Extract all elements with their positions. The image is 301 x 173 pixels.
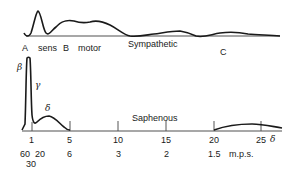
label-delta: δ (45, 103, 50, 113)
velocity-units: m.p.s. (229, 149, 254, 159)
sympathetic-curve (24, 11, 280, 37)
velocity-30: 30 (26, 159, 36, 169)
label-delta-2: δ (270, 134, 275, 144)
chart-canvas (0, 0, 301, 173)
label-beta: β (17, 62, 22, 72)
velocity-60: 60 (20, 149, 30, 159)
tick-1: 1 (29, 135, 34, 145)
tick-10: 10 (113, 135, 123, 145)
velocity-2: 2 (164, 149, 169, 159)
velocity-6: 6 (67, 149, 72, 159)
label-B: B (63, 43, 69, 53)
label-gamma: γ (35, 80, 40, 90)
label-saphenous: Saphenous (132, 113, 178, 123)
saphenous-curve (22, 57, 70, 130)
velocity-20: 20 (35, 149, 45, 159)
tick-15: 15 (161, 135, 171, 145)
label-sympathetic: Sympathetic (128, 39, 178, 49)
tick-20: 20 (209, 135, 219, 145)
tick-25: 25 (256, 135, 266, 145)
label-A: A (22, 43, 28, 53)
label-sens: sens (38, 43, 57, 53)
label-C: C (220, 47, 227, 57)
velocity-1-5: 1.5 (208, 149, 221, 159)
tick-5: 5 (67, 135, 72, 145)
label-motor: motor (78, 43, 101, 53)
velocity-3: 3 (116, 149, 121, 159)
saphenous-delta-tail-curve (214, 124, 282, 130)
